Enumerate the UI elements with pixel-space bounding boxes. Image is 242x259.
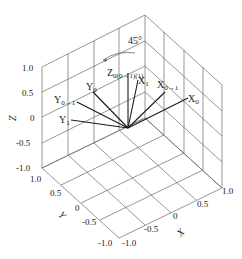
y-axis-label: Y — [56, 209, 69, 222]
label-x0to1: X0→1 — [157, 79, 179, 92]
svg-text:0.5: 0.5 — [22, 88, 34, 98]
vector-x0 — [128, 98, 188, 128]
svg-text:-0.5: -0.5 — [16, 138, 31, 148]
svg-text:0.5: 0.5 — [50, 188, 62, 198]
y-axis-ticks: 1.0 0.5 0 -0.5 -1.0 — [30, 174, 113, 248]
z-axis-label: Z — [7, 115, 18, 121]
floor-grid — [42, 118, 222, 238]
svg-text:-1.0: -1.0 — [98, 238, 113, 248]
right-wall-grid — [145, 15, 222, 188]
label-y0to1: Y0→1 — [54, 94, 76, 107]
x-axis-label: X — [174, 226, 187, 239]
svg-text:1.0: 1.0 — [222, 186, 234, 196]
svg-text:0: 0 — [173, 211, 178, 221]
x-axis-ticks: -1.0 -0.5 0 0.5 1.0 — [122, 186, 234, 248]
svg-text:0: 0 — [75, 203, 80, 213]
z-axis-ticks: 1.0 0.5 0 -0.5 -1.0 — [16, 63, 35, 173]
svg-text:-1.0: -1.0 — [122, 238, 137, 248]
svg-text:-1.0: -1.0 — [16, 163, 31, 173]
svg-text:1.0: 1.0 — [30, 174, 42, 184]
coordinate-frame-diagram: 45° Z0(0→1)(1) X1 X0→1 X0 Y0 Y0→1 Y1 1.0… — [0, 0, 242, 259]
svg-text:-0.5: -0.5 — [144, 224, 159, 234]
angle-label: 45° — [128, 35, 142, 46]
svg-text:0: 0 — [30, 113, 35, 123]
label-x1: X1 — [138, 75, 149, 88]
svg-text:0.5: 0.5 — [197, 199, 209, 209]
vector-y0 — [93, 92, 128, 128]
label-x0: X0 — [188, 93, 199, 106]
label-y1: Y1 — [59, 114, 70, 127]
svg-text:-0.5: -0.5 — [82, 217, 97, 227]
svg-text:1.0: 1.0 — [22, 63, 34, 73]
vector-x1 — [128, 80, 138, 128]
